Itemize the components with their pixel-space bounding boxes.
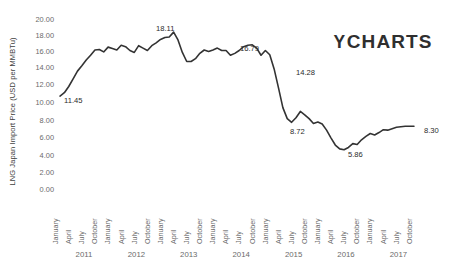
- y-tick-label: 10.00: [20, 99, 54, 107]
- x-tick-label: July: [130, 231, 139, 244]
- y-tick-label: 6.00: [20, 134, 54, 142]
- x-axis-year-labels: 2011201220132014201520162017: [58, 250, 410, 264]
- x-tick-label: April: [64, 230, 73, 244]
- x-tick-label: January: [365, 218, 374, 244]
- x-tick-label: January: [51, 218, 60, 244]
- y-axis-tick-labels: 20.00 18.00 16.00 14.00 12.00 10.00 8.00…: [16, 0, 54, 277]
- x-axis-year-label: 2011: [64, 250, 104, 259]
- data-point-label: 11.45: [64, 96, 82, 105]
- y-tick-label: 2.00: [20, 169, 54, 177]
- x-tick-label: October: [143, 218, 152, 244]
- ycharts-logo: YCHARTS: [333, 31, 433, 53]
- data-point-label: 14.28: [296, 68, 315, 77]
- x-tick-label: October: [90, 218, 99, 244]
- x-axis-year-label: 2016: [326, 250, 366, 259]
- x-tick-label: October: [300, 218, 309, 244]
- y-tick-label: 14.00: [20, 64, 54, 72]
- x-axis-year-label: 2013: [169, 250, 209, 259]
- x-axis-year-label: 2017: [378, 250, 418, 259]
- x-axis-year-label: 2014: [221, 250, 261, 259]
- y-tick-label: 20.00: [20, 16, 54, 24]
- y-tick-label: 0.00: [20, 186, 54, 194]
- x-tick-label: April: [326, 230, 335, 244]
- x-tick-label: October: [405, 218, 414, 244]
- x-tick-label: July: [182, 231, 191, 244]
- data-point-label: 18.11: [156, 24, 174, 33]
- x-tick-label: July: [234, 231, 243, 244]
- x-tick-label: July: [287, 231, 296, 244]
- data-point-label: 5.86: [348, 150, 363, 159]
- x-axis-month-labels: JanuaryAprilJulyOctoberJanuaryAprilJulyO…: [58, 198, 410, 244]
- data-point-label: 8.72: [290, 127, 305, 136]
- x-tick-label: July: [77, 231, 86, 244]
- x-tick-label: April: [274, 230, 283, 244]
- x-tick-label: January: [313, 218, 322, 244]
- x-tick-label: January: [103, 218, 112, 244]
- x-tick-label: April: [169, 230, 178, 244]
- x-axis-year-label: 2012: [116, 250, 156, 259]
- x-tick-label: July: [392, 231, 401, 244]
- x-tick-label: April: [221, 230, 230, 244]
- y-tick-label: 18.00: [20, 32, 54, 40]
- chart-container: LNG Japan Import Price (USD per MMBTu) 2…: [0, 0, 454, 277]
- x-tick-label: April: [117, 230, 126, 244]
- x-tick-label: October: [352, 218, 361, 244]
- data-point-label: 16.79: [240, 44, 259, 53]
- y-tick-label: 12.00: [20, 81, 54, 89]
- x-tick-label: October: [195, 218, 204, 244]
- x-axis-year-label: 2015: [274, 250, 314, 259]
- y-tick-label: 8.00: [20, 117, 54, 125]
- x-tick-label: April: [379, 230, 388, 244]
- ycharts-logo-y: Y: [334, 31, 347, 53]
- x-tick-label: January: [261, 218, 270, 244]
- x-tick-label: July: [339, 231, 348, 244]
- y-tick-label: 16.00: [20, 48, 54, 56]
- x-tick-label: January: [156, 218, 165, 244]
- ycharts-logo-text: CHARTS: [347, 31, 433, 52]
- x-tick-label: October: [248, 218, 257, 244]
- y-tick-label: 4.00: [20, 152, 54, 160]
- x-tick-label: January: [208, 218, 217, 244]
- data-point-label: 8.30: [424, 126, 439, 135]
